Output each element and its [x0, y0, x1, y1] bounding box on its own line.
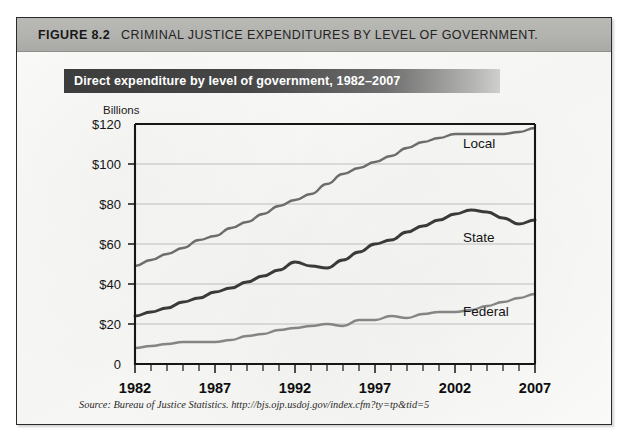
- y-tick-label: 0: [114, 357, 121, 372]
- x-tick-label: 1997: [359, 380, 391, 396]
- figure-number: FIGURE 8.2: [38, 28, 110, 42]
- y-tick-label: $100: [92, 157, 121, 172]
- y-tick-label: $120: [92, 117, 121, 132]
- series-label-state: State: [463, 230, 495, 245]
- y-tick-label: $40: [99, 277, 121, 292]
- series-label-federal: Federal: [463, 304, 509, 319]
- y-axis-tick-labels: $120$100$80$60$40$200: [92, 117, 121, 372]
- figure-body: Direct expenditure by level of governmen…: [17, 52, 611, 424]
- figure-caption: CRIMINAL JUSTICE EXPENDITURES BY LEVEL O…: [121, 28, 538, 42]
- source-note: Source: Bureau of Justice Statistics. ht…: [79, 399, 429, 410]
- y-tick-label: $60: [99, 237, 121, 252]
- series-line-federal: [135, 294, 535, 348]
- x-tick-label: 2007: [519, 380, 551, 396]
- figure-container: FIGURE 8.2 CRIMINAL JUSTICE EXPENDITURES…: [16, 17, 612, 425]
- chart-plot: $120$100$80$60$40$200 198219871992199720…: [17, 52, 613, 426]
- series-line-state: [135, 210, 535, 316]
- series-label-local: Local: [463, 136, 495, 151]
- x-tick-label: 1992: [279, 380, 311, 396]
- x-tick-label: 2002: [439, 380, 471, 396]
- x-axis-tickmarks: [135, 364, 535, 373]
- series-inline-labels: LocalStateFederal: [463, 136, 509, 319]
- x-tick-label: 1987: [199, 380, 231, 396]
- y-tick-label: $20: [99, 317, 121, 332]
- x-axis-tick-labels: 198219871992199720022007: [119, 380, 551, 396]
- y-tick-label: $80: [99, 197, 121, 212]
- figure-header-band: FIGURE 8.2 CRIMINAL JUSTICE EXPENDITURES…: [17, 18, 611, 52]
- x-tick-label: 1982: [119, 380, 151, 396]
